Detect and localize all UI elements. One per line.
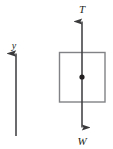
weight-label: W bbox=[77, 135, 87, 147]
diagram-canvas: T W y bbox=[0, 0, 113, 149]
center-of-mass-dot bbox=[79, 74, 84, 79]
free-body-diagram: T W y bbox=[0, 0, 113, 149]
y-axis-label: y bbox=[11, 40, 17, 51]
tension-label: T bbox=[79, 3, 86, 15]
